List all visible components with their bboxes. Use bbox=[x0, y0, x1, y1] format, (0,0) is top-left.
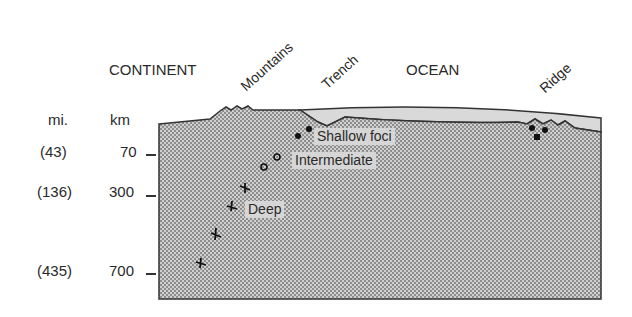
depth-mi-43: (43) bbox=[40, 143, 67, 160]
tick-70 bbox=[146, 154, 156, 156]
shallow-foci-label: Shallow foci bbox=[314, 128, 395, 145]
depth-km-70: 70 bbox=[120, 143, 137, 160]
depth-mi-136: (136) bbox=[37, 183, 72, 200]
continent-heading: CONTINENT bbox=[109, 61, 197, 78]
km-axis-header: km bbox=[110, 111, 130, 128]
depth-km-700: 700 bbox=[109, 262, 134, 279]
intermediate-foci-label: Intermediate bbox=[292, 152, 376, 169]
tick-300 bbox=[146, 195, 156, 197]
deep-foci-label: Deep bbox=[245, 201, 284, 218]
depth-km-300: 300 bbox=[109, 183, 134, 200]
ocean-heading: OCEAN bbox=[406, 61, 459, 78]
miles-axis-header: mi. bbox=[48, 111, 68, 128]
depth-mi-435: (435) bbox=[37, 262, 72, 279]
tick-700 bbox=[146, 273, 156, 275]
